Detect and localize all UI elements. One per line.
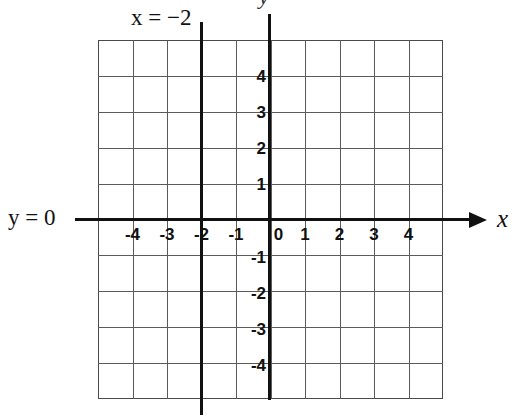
x-axis (75, 218, 473, 221)
coordinate-plane-figure: -4-3-2-1012344321-1-2-3-4 x = −2 y = 0 x… (0, 0, 525, 420)
x-tick-label: 1 (300, 226, 309, 243)
y-tick-label: -3 (236, 321, 266, 338)
x-tick-label: -2 (194, 226, 209, 243)
y-tick-label: 3 (244, 103, 266, 120)
y-axis (268, 14, 271, 400)
x-tick-label: -4 (125, 226, 140, 243)
label-x-equals-negative-2: x = −2 (131, 6, 191, 29)
y-tick-label: -2 (236, 285, 266, 302)
x-tick-label: -1 (228, 226, 243, 243)
x-axis-arrow-icon (469, 212, 487, 228)
y-axis-name-label: y (259, 0, 269, 8)
x-tick-label: -3 (159, 226, 174, 243)
x-tick-label: 2 (335, 226, 344, 243)
x-tick-label: 0 (274, 226, 283, 243)
y-tick-label: 1 (244, 175, 266, 192)
y-tick-label: -4 (236, 357, 266, 374)
y-tick-label: 4 (244, 67, 266, 84)
line-x-equals-negative-2 (200, 22, 203, 415)
x-tick-label: 3 (369, 226, 378, 243)
label-y-equals-0: y = 0 (8, 206, 55, 229)
y-tick-label: -1 (236, 249, 266, 266)
x-tick-label: 4 (404, 226, 413, 243)
x-axis-name-label: x (497, 206, 508, 231)
y-tick-label: 2 (244, 139, 266, 156)
